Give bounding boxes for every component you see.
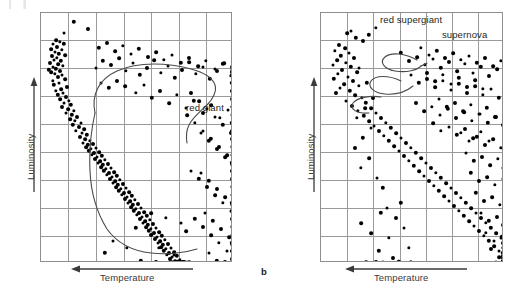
temperature-axis-label-a: Temperature xyxy=(100,272,154,283)
supergiant-tracks-b xyxy=(321,13,503,262)
plot-area-a xyxy=(40,12,232,262)
annotation-red-supergiant: red supergiant xyxy=(380,14,442,25)
hr-diagram-figure: Luminosity red giant xyxy=(0,0,521,296)
luminosity-axis-label-a: Luminosity xyxy=(25,134,36,180)
panel-b: b Luminosity xyxy=(260,0,521,296)
plot-area-b xyxy=(320,12,503,262)
panel-a: Luminosity red giant xyxy=(0,0,260,296)
red-giant-track-a xyxy=(41,13,232,262)
temperature-axis-label-b: Temperature xyxy=(374,272,428,283)
panel-letter-b: b xyxy=(261,266,267,277)
annotation-supernova: supernova xyxy=(442,29,487,40)
luminosity-axis-label-b: Luminosity xyxy=(305,134,316,180)
annotation-red-giant: red giant xyxy=(186,102,224,113)
